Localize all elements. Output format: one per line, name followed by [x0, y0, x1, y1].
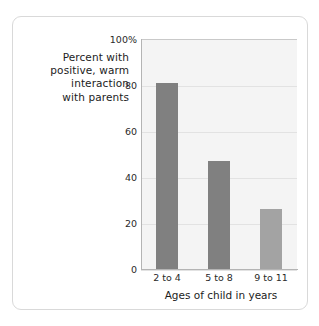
bar-5-to-8[interactable] — [208, 161, 230, 269]
y-tick-label: 100% — [101, 34, 137, 45]
x-tick-label: 2 to 4 — [141, 272, 193, 283]
gridline — [141, 270, 297, 271]
y-axis-tick-labels: 020406080100% — [99, 39, 137, 269]
bar-slot — [260, 39, 282, 269]
x-axis-title: Ages of child in years — [131, 289, 311, 301]
x-axis-tick-labels: 2 to 45 to 89 to 11 — [141, 272, 298, 286]
bar-slot — [156, 39, 178, 269]
x-tick-label: 9 to 11 — [245, 272, 297, 283]
bar-2-to-4[interactable] — [156, 83, 178, 269]
y-tick-label: 60 — [101, 126, 137, 137]
y-axis-line — [141, 39, 142, 270]
bar-9-to-11[interactable] — [260, 209, 282, 269]
bar-slot — [208, 39, 230, 269]
y-tick-label: 40 — [101, 172, 137, 183]
x-axis-line — [141, 269, 298, 270]
y-tick-label: 80 — [101, 80, 137, 91]
y-tick-label: 0 — [101, 264, 137, 275]
figure-card: Percent with positive, warm interaction … — [12, 16, 308, 310]
y-tick-label: 20 — [101, 218, 137, 229]
x-tick-label: 5 to 8 — [193, 272, 245, 283]
plot-area — [141, 39, 297, 269]
